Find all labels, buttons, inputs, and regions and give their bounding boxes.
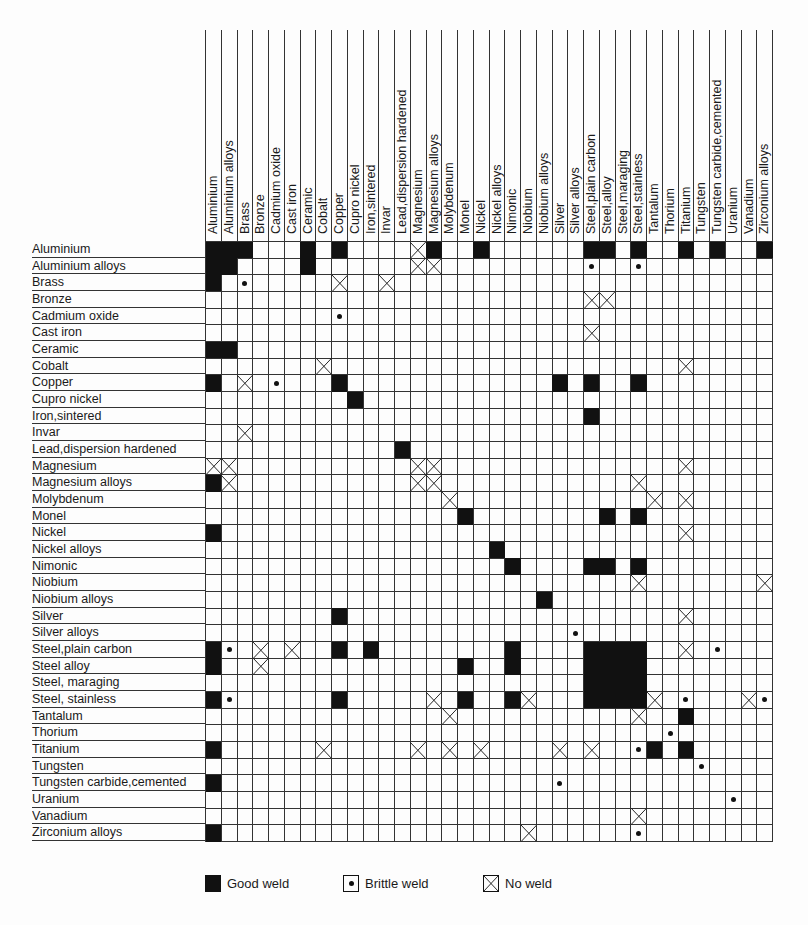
row-header: Magnesium alloys — [32, 474, 205, 491]
good-weld-cell — [458, 692, 474, 709]
column-header: Cupro nickel — [347, 38, 363, 238]
column-header: Silver alloys — [567, 38, 583, 238]
good-weld-cell — [505, 558, 521, 575]
row-header: Iron,sintered — [32, 408, 205, 425]
good-weld-cell — [631, 675, 647, 692]
good-weld-cell — [206, 375, 222, 392]
column-header-label: Molybdenum — [442, 162, 457, 234]
row-header: Steel,plain carbon — [32, 641, 205, 658]
no-weld-cell — [221, 458, 237, 475]
no-weld-cell — [599, 292, 615, 309]
no-weld-cell — [442, 708, 458, 725]
column-header: Tungsten carbide,cemented — [709, 38, 725, 238]
column-header-label: Cadmium oxide — [269, 147, 284, 234]
good-weld-cell — [584, 375, 600, 392]
good-weld-cell — [631, 558, 647, 575]
good-weld-cell — [615, 675, 631, 692]
grid-row-line — [205, 774, 773, 775]
brittle-weld-cell — [694, 758, 710, 775]
row-header: Ceramic — [32, 341, 205, 358]
good-weld-cell — [584, 675, 600, 692]
row-header: Invar — [32, 424, 205, 441]
grid-row-line — [205, 391, 773, 392]
legend-noweld-label: No weld — [505, 876, 552, 891]
grid-row-line — [205, 441, 773, 442]
good-weld-cell — [206, 742, 222, 759]
good-weld-cell — [584, 242, 600, 259]
column-header-label: Nimonic — [505, 189, 520, 234]
no-weld-cell — [631, 808, 647, 825]
column-header: Nimonic — [504, 38, 520, 238]
good-weld-cell — [206, 825, 222, 842]
column-header: Nickel — [473, 38, 489, 238]
no-weld-cell — [237, 425, 253, 442]
good-weld-cell — [599, 658, 615, 675]
column-header: Magnesium — [410, 38, 426, 238]
brittle-weld-cell — [678, 692, 694, 709]
grid-row-line — [205, 824, 773, 825]
row-header: Tungsten — [32, 758, 205, 775]
brittle-weld-cell — [710, 642, 726, 659]
row-header: Niobium alloys — [32, 591, 205, 608]
good-weld-cell — [710, 242, 726, 259]
brittle-weld-cell — [584, 258, 600, 275]
grid-column-line — [552, 30, 553, 841]
no-weld-cell — [426, 258, 442, 275]
legend-brittle-weld: Brittle weld — [343, 875, 429, 892]
grid-column-line — [221, 30, 222, 841]
good-weld-cell — [552, 375, 568, 392]
good-weld-cell — [300, 242, 316, 259]
good-weld-cell — [584, 408, 600, 425]
good-weld-cell — [458, 508, 474, 525]
column-header: Vanadium — [741, 38, 757, 238]
good-weld-cell — [631, 658, 647, 675]
no-weld-swatch-icon — [483, 875, 499, 892]
no-weld-cell — [678, 458, 694, 475]
column-header: Molybdenum — [441, 38, 457, 238]
column-header-label: Silver alloys — [568, 167, 583, 234]
column-header-label: Niobium alloys — [537, 153, 552, 234]
grid-row-line — [205, 424, 773, 425]
good-weld-cell — [647, 742, 663, 759]
column-header-label: Monel — [458, 200, 473, 234]
good-weld-cell — [599, 642, 615, 659]
grid-column-line — [741, 30, 742, 841]
good-weld-cell — [678, 742, 694, 759]
good-weld-cell — [599, 675, 615, 692]
row-header: Silver — [32, 608, 205, 625]
column-header-label: Ceramic — [301, 187, 316, 234]
grid-row-line — [205, 291, 773, 292]
column-header-label: Cast iron — [285, 184, 300, 234]
grid-column-line — [520, 30, 521, 841]
no-weld-cell — [410, 742, 426, 759]
good-weld-swatch-icon — [205, 875, 221, 892]
grid-row-line — [205, 591, 773, 592]
column-header-label: Steel,stainless — [631, 153, 646, 234]
grid-row-line — [205, 308, 773, 309]
grid-column-line — [504, 30, 505, 841]
no-weld-cell — [332, 275, 348, 292]
row-header: Steel, maraging — [32, 674, 205, 691]
no-weld-cell — [237, 375, 253, 392]
row-header: Aluminium — [32, 241, 205, 258]
row-header: Copper — [32, 374, 205, 391]
column-header: Steel,plain carbon — [583, 38, 599, 238]
grid-row-line — [205, 574, 773, 575]
good-weld-cell — [332, 608, 348, 625]
good-weld-cell — [678, 708, 694, 725]
good-weld-cell — [505, 692, 521, 709]
column-header: Cast iron — [284, 38, 300, 238]
no-weld-cell — [678, 642, 694, 659]
column-header: Ceramic — [300, 38, 316, 238]
row-header: Bronze — [32, 291, 205, 308]
no-weld-cell — [426, 475, 442, 492]
grid-column-line — [583, 30, 584, 841]
good-weld-cell — [678, 242, 694, 259]
grid-column-line — [300, 30, 301, 841]
good-weld-cell — [363, 642, 379, 659]
column-header: Nickel alloys — [489, 38, 505, 238]
column-header: Cobalt — [315, 38, 331, 238]
no-weld-cell — [631, 575, 647, 592]
no-weld-cell — [521, 825, 537, 842]
good-weld-cell — [221, 242, 237, 259]
